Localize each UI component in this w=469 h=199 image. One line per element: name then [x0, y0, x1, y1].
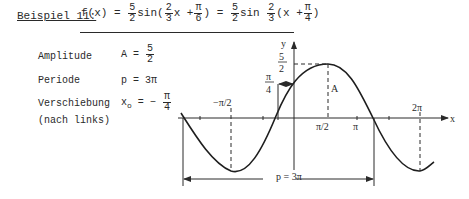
tick-label-neg-pi-half: −π/2	[213, 97, 231, 108]
y-value-numerator: 5	[279, 51, 284, 62]
shift-denominator: 4	[266, 84, 271, 95]
sine-graph: y x −π/2 π/2 π 2π A p = 3π 5 2 π 4	[0, 0, 469, 199]
y-value-denominator: 2	[279, 63, 284, 74]
y-axis-label: y	[281, 38, 286, 49]
tick-label-pi: π	[353, 121, 358, 132]
tick-label-2pi: 2π	[412, 102, 422, 113]
x-axis-label: x	[450, 113, 455, 124]
amplitude-marker: A	[331, 83, 339, 94]
period-label: p = 3π	[276, 171, 302, 182]
shift-numerator: π	[266, 71, 271, 82]
tick-label-pi-half: π/2	[316, 121, 329, 132]
